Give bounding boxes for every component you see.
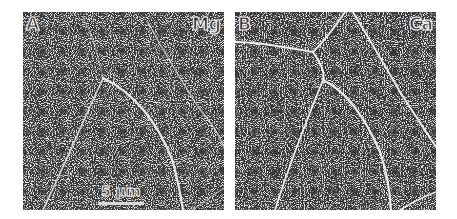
mg-elemental-map	[23, 12, 224, 210]
panel-label: B	[238, 16, 251, 33]
panel-b-ca-map: B Ca	[235, 12, 436, 210]
element-label: Mg	[192, 16, 221, 33]
panel-a-mg-map: A Mg 5 µm	[23, 12, 224, 210]
scale-bar-label: 5 µm	[101, 184, 141, 198]
panel-label: A	[26, 16, 39, 33]
ca-elemental-map	[235, 12, 436, 210]
element-label: Ca	[409, 16, 433, 33]
scale-bar	[98, 202, 144, 205]
